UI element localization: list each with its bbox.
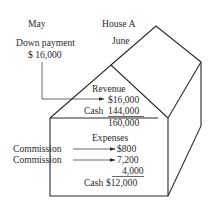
- revenue-cash-label: Cash: [84, 105, 103, 116]
- expenses-cash-label: Cash: [84, 177, 103, 188]
- commission-label-2: Commission: [13, 154, 62, 165]
- roof-side-slope: [168, 62, 201, 118]
- revenue-ledger: Revenue $16,000 Cash 144,000 160,000: [84, 83, 144, 128]
- revenue-line-2: 144,000: [108, 105, 139, 116]
- label-may: May: [28, 18, 46, 29]
- label-down-payment: Down payment: [16, 37, 75, 48]
- revenue-title: Revenue: [92, 83, 126, 94]
- label-house: House A: [102, 18, 135, 29]
- expenses-title: Expenses: [92, 132, 129, 143]
- expenses-ledger: Expenses Commission $800 Commission 7,20…: [13, 132, 144, 188]
- expenses-line-1: $800: [117, 143, 136, 154]
- label-june: June: [112, 35, 130, 46]
- house-cash-flow-diagram: May House A June Down payment $ 16,000 R…: [0, 0, 211, 211]
- revenue-total: 160,000: [108, 117, 139, 128]
- revenue-line-1: $16,000: [108, 94, 139, 105]
- commission-label-1: Commission: [13, 143, 62, 154]
- expenses-line-2: 7,200: [117, 154, 139, 165]
- expenses-total: $12,000: [106, 177, 137, 188]
- expenses-line-3: 4,000: [122, 165, 144, 176]
- value-down-payment: $ 16,000: [28, 49, 62, 60]
- side-wall: [168, 62, 201, 196]
